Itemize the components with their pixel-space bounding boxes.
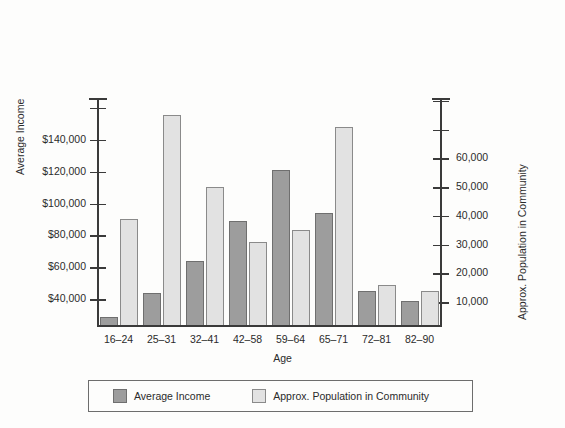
bar-group [271,98,311,325]
bar-average-income [358,291,376,325]
bar-group [400,98,440,325]
legend-item-average-income: Average Income [113,389,210,403]
legend-label-population: Approx. Population in Community [273,390,429,402]
left-axis-tick-label: $140,000 [0,133,86,145]
right-axis-line [440,98,442,326]
right-axis-tick-label: 20,000 [456,266,488,278]
bar-population [206,187,224,325]
right-axis-tick-label: 30,000 [456,238,488,250]
left-axis-tick-label: $100,000 [0,197,86,209]
bar-average-income [186,261,204,325]
bar-average-income [143,293,161,325]
bar-average-income [100,317,118,325]
legend-label-income: Average Income [134,390,210,402]
right-axis-tick-label: 40,000 [456,209,488,221]
x-axis-title: Age [0,352,565,364]
x-axis-line [97,325,442,327]
bar-group [99,98,139,325]
bar-average-income [315,213,333,325]
legend-swatch-population [252,389,266,403]
right-axis-title: Approx. Population in Community [516,164,528,320]
left-axis-tick-label: $40,000 [0,292,86,304]
bar-average-income [229,221,247,325]
bar-population [421,291,439,325]
bar-group [142,98,182,325]
bar-chart: Average Income Approx. Population in Com… [0,0,565,428]
left-axis-tick-label: $60,000 [0,260,86,272]
bar-population [378,285,396,325]
bar-population [249,242,267,325]
legend-swatch-income [113,389,127,403]
legend-item-population: Approx. Population in Community [252,389,429,403]
bar-average-income [272,170,290,325]
bar-population [163,115,181,325]
right-axis-tick-label: 50,000 [456,180,488,192]
chart-legend: Average Income Approx. Population in Com… [88,380,473,412]
bar-group [228,98,268,325]
x-axis-tick-label: 82–90 [394,333,446,345]
left-axis-tick-label: $80,000 [0,228,86,240]
bar-average-income [401,301,419,325]
bar-population [292,230,310,325]
right-axis-tick-label: 60,000 [456,151,488,163]
bar-group [185,98,225,325]
bar-population [120,219,138,325]
right-axis-tick-label: 10,000 [456,295,488,307]
left-axis-tick-label: $120,000 [0,165,86,177]
bar-group [314,98,354,325]
bar-population [335,127,353,325]
bar-group [357,98,397,325]
